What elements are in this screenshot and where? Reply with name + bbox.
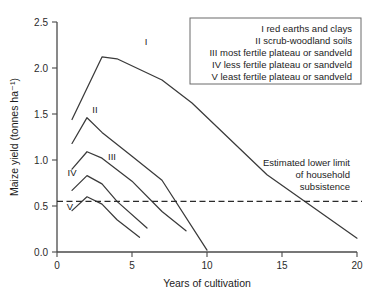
legend-entry-2: III most fertile plateau or sandveld bbox=[209, 47, 352, 58]
x-tick-label-1: 5 bbox=[129, 260, 135, 271]
x-tick-label-0: 0 bbox=[54, 260, 60, 271]
legend-entry-4: V least fertile plateau or sandveld bbox=[212, 71, 352, 82]
threshold-annotation-line-3: subsistence bbox=[300, 181, 350, 192]
x-axis-title: Years of cultivation bbox=[163, 277, 251, 289]
legend-entry-1: II scrub-woodland soils bbox=[255, 35, 352, 46]
series-label-V: V bbox=[67, 201, 74, 212]
threshold-annotation-line-2: of household bbox=[296, 169, 350, 180]
y-tick-label-4: 2.0 bbox=[34, 63, 48, 74]
x-tick-group: 05101520 bbox=[54, 252, 363, 271]
subsistence-threshold: Estimated lower limit of household subsi… bbox=[57, 157, 362, 201]
x-tick-label-2: 10 bbox=[201, 260, 213, 271]
y-tick-label-0: 0.0 bbox=[34, 247, 48, 258]
y-tick-label-1: 0.5 bbox=[34, 201, 48, 212]
series-label-II: II bbox=[92, 104, 97, 115]
legend-entry-3: IV less fertile plateau or sandveld bbox=[212, 59, 352, 70]
series-line-II bbox=[72, 118, 207, 250]
y-tick-label-2: 1.0 bbox=[34, 155, 48, 166]
x-axis: 05101520 Years of cultivation bbox=[54, 252, 363, 289]
series-label-IV: IV bbox=[68, 167, 78, 178]
x-tick-label-4: 20 bbox=[351, 260, 363, 271]
x-tick-label-3: 15 bbox=[276, 260, 288, 271]
chart-figure: 0.00.51.01.52.02.5 Maize yield (tonnes h… bbox=[0, 0, 372, 298]
threshold-annotation-line-1: Estimated lower limit bbox=[263, 157, 350, 168]
series-label-III: III bbox=[108, 151, 116, 162]
y-tick-group: 0.00.51.01.52.02.5 bbox=[34, 17, 57, 258]
y-tick-label-5: 2.5 bbox=[34, 17, 48, 28]
y-axis: 0.00.51.01.52.02.5 Maize yield (tonnes h… bbox=[8, 17, 57, 258]
series-line-V bbox=[72, 197, 140, 237]
y-axis-title: Maize yield (tonnes ha⁻¹) bbox=[8, 78, 20, 196]
legend-entry-0: I red earths and clays bbox=[261, 23, 352, 34]
y-tick-label-3: 1.5 bbox=[34, 109, 48, 120]
legend: I red earths and claysII scrub-woodland … bbox=[190, 18, 361, 84]
maize-yield-line-chart: 0.00.51.01.52.02.5 Maize yield (tonnes h… bbox=[0, 0, 372, 298]
series-label-I: I bbox=[145, 36, 148, 47]
